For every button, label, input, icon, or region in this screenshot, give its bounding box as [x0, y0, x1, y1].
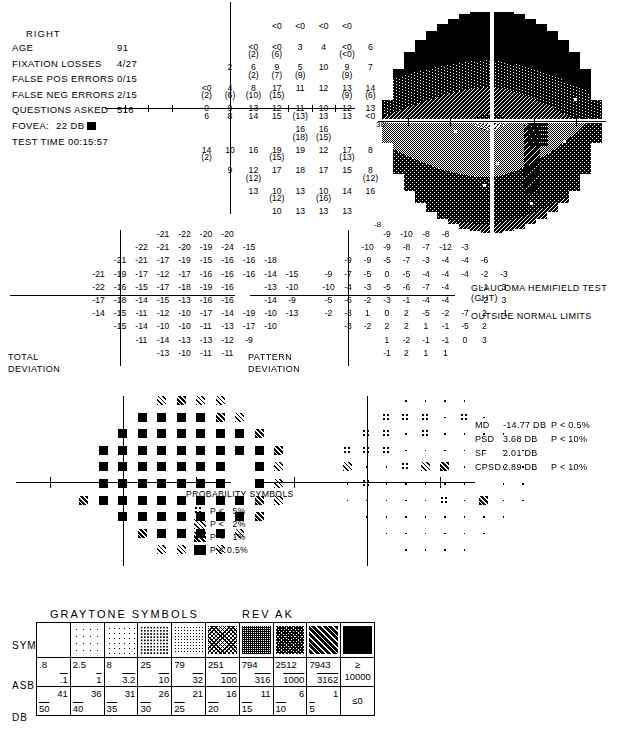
probability-symbol-p1 — [138, 529, 147, 538]
probability-symbol-p05 — [99, 479, 108, 488]
field-value-cell: -4 — [437, 296, 455, 305]
field-value-cell: -17 — [196, 309, 216, 318]
graytone-asb-cell: 83.2 — [104, 658, 138, 687]
field-value-cell: 2 — [476, 322, 494, 331]
asb-upper: 2.5 — [73, 659, 86, 670]
field-value-cell: -21 — [153, 243, 173, 252]
value-primary: -7 — [339, 270, 357, 279]
field-value-cell: -1 — [495, 309, 513, 318]
graytone-db-cell: 610 — [273, 687, 307, 716]
field-value-cell: -19 — [196, 283, 216, 292]
probability-symbol-p5 — [401, 462, 412, 472]
field-value-cell: -2 — [476, 296, 494, 305]
pattern-deviation-numeric-grid: -9-10-8-8-10-9-8-7-12-3-9-9-5-7-3-4-4-6-… — [248, 228, 458, 360]
value-primary: -3 — [339, 309, 357, 318]
value-retest: (15) — [313, 133, 335, 142]
probability-symbol-p05 — [118, 512, 127, 521]
field-value-cell: -5 — [456, 322, 474, 331]
asb-lower: .1 — [60, 674, 68, 685]
value-primary: 13 — [313, 207, 335, 216]
probability-symbol-dot — [401, 529, 412, 539]
field-value-cell: -8 — [398, 243, 416, 252]
asb-upper: 7943 — [309, 659, 330, 670]
value-primary: 13 — [289, 207, 311, 216]
probability-symbol-p05 — [216, 462, 225, 471]
probability-symbol-p5 — [440, 496, 451, 506]
value-retest: 6 — [196, 112, 218, 121]
probability-symbol-p05 — [138, 462, 147, 471]
value-primary: -15 — [153, 296, 173, 305]
probability-symbol-p2 — [177, 545, 186, 554]
probability-symbol-p05 — [196, 429, 205, 438]
value-retest: (15) — [266, 91, 288, 100]
field-value-cell: -14 — [132, 296, 152, 305]
value-primary: 2 — [398, 322, 416, 331]
value-primary: -16 — [196, 296, 216, 305]
value-primary: -10 — [359, 243, 377, 252]
value-primary: -10 — [175, 322, 195, 331]
field-value-cell: -21 — [110, 256, 130, 265]
value-primary: 17 — [313, 166, 335, 175]
global-indices: MD-14.77 DBP < 0.5%PSD3.68 DBP < 10%SF2.… — [475, 420, 605, 476]
legend-text: P < 0.5% — [210, 545, 248, 555]
value-primary: -2 — [398, 336, 416, 345]
value-primary: -7 — [417, 283, 435, 292]
probability-symbol-dot — [440, 413, 451, 423]
field-value-cell: 2 — [378, 322, 396, 331]
value-retest: 13 — [336, 112, 358, 121]
value-primary: 16 — [242, 146, 264, 155]
probability-symbol-p05 — [138, 479, 147, 488]
value-primary: 13 — [289, 187, 311, 196]
field-value-cell: -2 — [320, 309, 338, 318]
field-value-cell: -10 — [320, 283, 338, 292]
value-primary: 1 — [437, 349, 455, 358]
value-primary: -5 — [378, 256, 396, 265]
value-primary: -18 — [175, 283, 195, 292]
probability-symbol-p05 — [138, 413, 147, 422]
value-primary: -15 — [132, 283, 152, 292]
probability-legend-row: P < 2% — [194, 517, 294, 530]
field-value-cell: -3 — [495, 270, 513, 279]
value-primary: -7 — [456, 309, 474, 318]
index-probability: P < 0.5% — [551, 420, 605, 434]
field-value-cell: 12 — [313, 84, 335, 93]
index-row-sf: SF2.01 DB — [475, 448, 605, 462]
field-value-cell: 13 — [289, 207, 311, 216]
field-value-cell: -1 — [437, 336, 455, 345]
probability-symbol-p5 — [362, 429, 373, 439]
field-value-cell: -3 — [339, 322, 357, 331]
value-primary: -2 — [359, 322, 377, 331]
value-primary: -22 — [175, 230, 195, 239]
field-value-cell: -2 — [476, 270, 494, 279]
value-primary: -15 — [110, 322, 130, 331]
value-primary: -12 — [153, 270, 173, 279]
value-primary: -2 — [476, 270, 494, 279]
field-value-cell: -8 — [437, 230, 455, 239]
field-value-cell: -20 — [218, 230, 238, 239]
field-value-cell: -17 — [175, 270, 195, 279]
value-primary: -16 — [110, 283, 130, 292]
probability-symbol-dot — [362, 496, 373, 506]
field-value-cell: 06 — [196, 104, 218, 120]
value-primary: -5 — [398, 270, 416, 279]
value-primary: -24 — [218, 243, 238, 252]
value-primary: -17 — [196, 309, 216, 318]
index-value: 2.01 DB — [503, 448, 551, 462]
field-value-cell: -4 — [417, 270, 435, 279]
field-value-cell: -16 — [196, 270, 216, 279]
value-retest: (9) — [336, 91, 358, 100]
probability-symbol-dot — [499, 496, 510, 506]
probability-symbol-p05 — [157, 462, 166, 471]
value-primary: -12 — [153, 309, 173, 318]
field-value-cell: 9(9) — [336, 63, 358, 79]
value-retest: (12) — [242, 174, 264, 183]
field-value-cell: -10 — [175, 322, 195, 331]
greyscale-canvas — [378, 12, 606, 234]
field-value-cell: -4 — [437, 270, 455, 279]
probability-symbol-dot — [382, 496, 393, 506]
probability-symbol-p05 — [196, 462, 205, 471]
field-value-cell: -10 — [153, 322, 173, 331]
field-value-cell: -9 — [378, 243, 396, 252]
probability-symbols-legend: PROBABILITY SYMBOLS P < 5%P < 2%P < 1%P … — [186, 489, 294, 556]
value-primary: -6 — [339, 296, 357, 305]
